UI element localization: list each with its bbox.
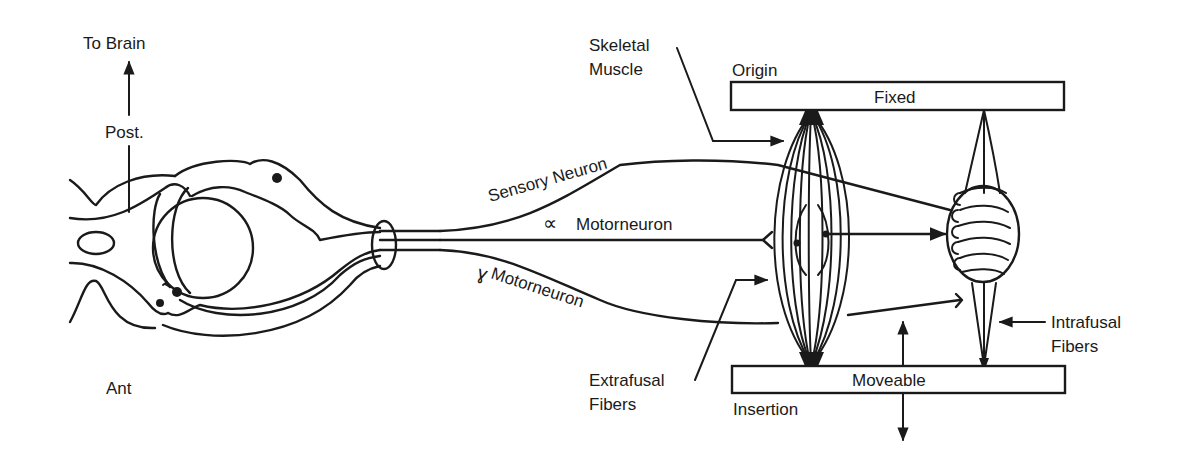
gamma-motorneuron-to-spindle [848, 300, 960, 315]
gamma-motor-cell-body [156, 299, 164, 307]
alpha-motor-cell-body [172, 287, 182, 297]
to-brain-label: To Brain [83, 34, 145, 53]
nerve-sheath [372, 221, 396, 269]
moveable-label: Moveable [852, 371, 926, 390]
alpha-symbol: ∝ [543, 212, 557, 234]
extrafusal-label-line1: Extrafusal [589, 371, 665, 390]
insertion-label: Insertion [733, 400, 798, 419]
intrafusal-label-line1: Intrafusal [1051, 313, 1121, 332]
skeletal-muscle [774, 111, 849, 366]
origin-label: Origin [732, 61, 777, 80]
dorsal-root [175, 160, 380, 240]
muscle-spindle [947, 110, 1019, 366]
skeletal-muscle-label-line1: Skeletal [589, 36, 649, 55]
extrafusal-label-line2: Fibers [589, 395, 636, 414]
skeletal-muscle-label-line2: Muscle [589, 60, 643, 79]
spindle-capsule [947, 186, 1019, 282]
alpha-motorneuron-label: Motorneuron [576, 215, 672, 234]
central-canal [78, 232, 114, 254]
intrafusal-label-line2: Fibers [1051, 337, 1098, 356]
fixed-label: Fixed [874, 88, 916, 107]
peripheral-nerve [380, 231, 440, 250]
anterior-label: Ant [106, 379, 132, 398]
gamma-motorneuron-fiber [440, 250, 778, 323]
sensory-neuron-label: Sensory Neuron [486, 154, 609, 206]
origin-bar: Origin Fixed [731, 61, 1064, 110]
posterior-label: Post. [105, 123, 144, 142]
alpha-motor-end-plate [763, 232, 772, 248]
insertion-bar: Moveable Insertion [732, 322, 1065, 440]
stretch-reflex-diagram: To Brain Post. Ant Sensory Neuron ∝ Moto… [0, 0, 1199, 457]
dorsal-root-ganglion-cell [272, 173, 282, 183]
